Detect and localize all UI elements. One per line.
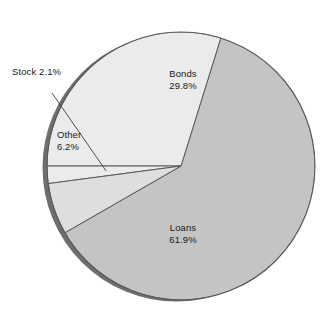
pie-label-bonds: Bonds 29.8%: [155, 68, 211, 92]
pie-label-bonds-name: Bonds: [155, 68, 211, 80]
pie-label-other: Other 6.2%: [57, 129, 107, 153]
pie-label-other-value: 6.2%: [57, 141, 107, 153]
pie-label-bonds-value: 29.8%: [155, 80, 211, 92]
pie-label-other-name: Other: [57, 129, 107, 141]
pie-chart-graphic: [0, 0, 331, 326]
pie-label-loans: Loans 61.9%: [155, 222, 211, 246]
pie-label-stock: Stock 2.1%: [12, 66, 64, 78]
pie-label-loans-name: Loans: [155, 222, 211, 234]
pie-label-loans-value: 61.9%: [155, 234, 211, 246]
pie-label-stock-name: Stock: [12, 66, 36, 77]
pie-chart: Bonds 29.8% Loans 61.9% Other 6.2% Stock…: [0, 0, 331, 326]
pie-label-stock-value: 2.1%: [39, 66, 61, 77]
